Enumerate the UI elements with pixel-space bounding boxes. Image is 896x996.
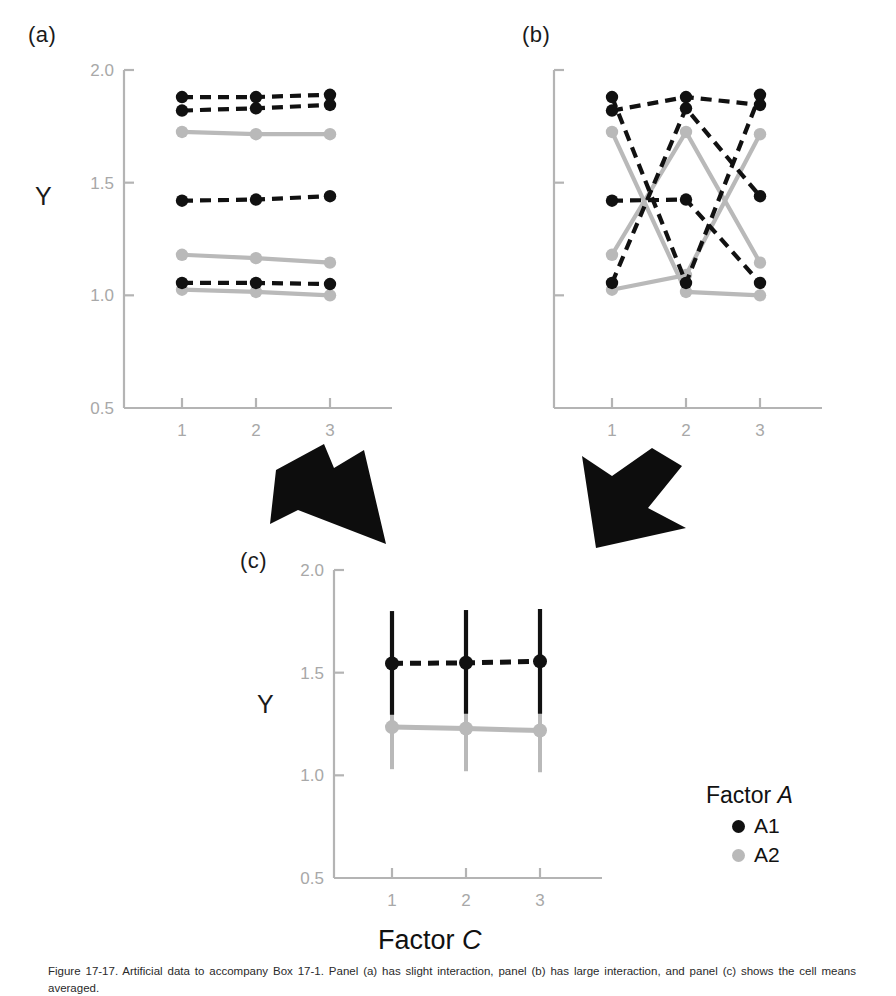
xaxis-title-italic: C bbox=[462, 925, 482, 955]
svg-text:2.0: 2.0 bbox=[90, 61, 114, 80]
panel-a-ylabel: Y bbox=[35, 182, 52, 211]
panel-b-plot: 123 bbox=[448, 0, 896, 440]
panel-a-tag: (a) bbox=[28, 22, 56, 48]
panel-a: (a) Y 0.51.01.52.0123 bbox=[0, 0, 448, 440]
legend-title: Factor A bbox=[706, 782, 793, 809]
svg-text:2.0: 2.0 bbox=[300, 561, 324, 580]
svg-text:2: 2 bbox=[251, 421, 260, 440]
panel-c-plot: 0.51.01.52.0123 bbox=[224, 520, 694, 940]
panel-c: (c) Y 0.51.01.52.0123 bbox=[224, 520, 694, 940]
svg-text:1.5: 1.5 bbox=[300, 664, 324, 683]
panel-c-tag: (c) bbox=[240, 548, 267, 574]
svg-text:2: 2 bbox=[461, 891, 470, 910]
legend-marker-a2-icon bbox=[732, 849, 745, 862]
legend-item-a1[interactable]: A1 bbox=[732, 814, 793, 838]
panel-c-ylabel: Y bbox=[257, 690, 274, 719]
panel-a-plot: 0.51.01.52.0123 bbox=[0, 0, 448, 440]
svg-text:0.5: 0.5 bbox=[90, 399, 114, 418]
legend-label-a1: A1 bbox=[754, 814, 780, 838]
svg-text:3: 3 bbox=[755, 421, 764, 440]
xaxis-title-text: Factor bbox=[378, 925, 462, 955]
svg-text:1.5: 1.5 bbox=[90, 174, 114, 193]
figure-caption: Figure 17-17. Artificial data to accompa… bbox=[48, 963, 856, 996]
panel-b: (b) 123 bbox=[448, 0, 896, 440]
svg-text:0.5: 0.5 bbox=[300, 869, 324, 888]
svg-text:1.0: 1.0 bbox=[300, 766, 324, 785]
legend-title-italic: A bbox=[778, 782, 793, 808]
svg-text:1: 1 bbox=[177, 421, 186, 440]
panel-b-tag: (b) bbox=[522, 22, 550, 48]
legend-marker-a1-icon bbox=[732, 820, 745, 833]
legend-label-a2: A2 bbox=[754, 843, 780, 867]
svg-text:1.0: 1.0 bbox=[90, 286, 114, 305]
svg-text:3: 3 bbox=[535, 891, 544, 910]
legend-item-a2[interactable]: A2 bbox=[732, 843, 793, 867]
svg-text:1: 1 bbox=[387, 891, 396, 910]
xaxis-title: Factor C bbox=[378, 925, 482, 956]
legend: Factor A A1 A2 bbox=[706, 782, 793, 867]
